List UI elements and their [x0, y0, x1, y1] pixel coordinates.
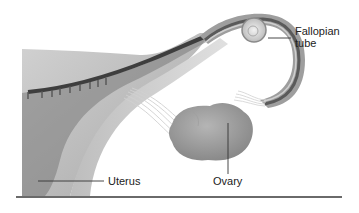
ovary-shape: [169, 103, 253, 160]
label-fallopian-line2: tube: [295, 37, 340, 49]
label-ovary: Ovary: [213, 175, 242, 187]
egg-cell: [242, 18, 266, 42]
label-fallopian-tube: Fallopian tube: [295, 25, 340, 49]
label-uterus: Uterus: [108, 175, 140, 187]
bottom-divider: [16, 196, 342, 198]
label-fallopian-line1: Fallopian: [295, 25, 340, 37]
fallopian-tube-shape: [200, 14, 305, 108]
